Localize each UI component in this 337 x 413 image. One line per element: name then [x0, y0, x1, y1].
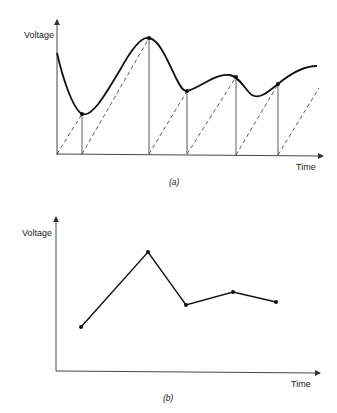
- diagram-a-x-axis: [57, 154, 323, 156]
- diagram-b: Voltage Time (b): [22, 217, 320, 403]
- sampled-polyline: [81, 252, 276, 327]
- sample-dots-b: [79, 250, 278, 329]
- sampling-diagram: Voltage Time (a): [0, 0, 337, 413]
- diagram-b-y-label: Voltage: [22, 228, 52, 238]
- diagram-a-caption: (a): [169, 177, 180, 187]
- sawtooth-ramps: [57, 38, 319, 155]
- diagram-a-x-label: Time: [296, 162, 316, 172]
- diagram-a-y-label: Voltage: [24, 30, 54, 40]
- diagram-b-x-axis: [56, 371, 320, 373]
- diagram-a: Voltage Time (a): [24, 20, 323, 187]
- sample-lines: [82, 38, 278, 155]
- diagram-b-x-label: Time: [291, 379, 311, 389]
- sample-dots-a: [80, 36, 280, 116]
- diagram-b-caption: (b): [163, 393, 174, 403]
